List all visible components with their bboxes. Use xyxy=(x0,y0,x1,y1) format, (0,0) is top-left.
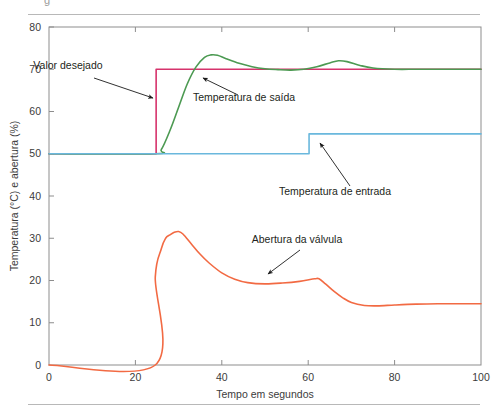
annotation-label: Abertura da válvula xyxy=(252,233,343,245)
y-axis-title: Temperatura (°C) e abertura (%) xyxy=(8,121,20,272)
figure-container: g 01020304050607080020406080100Tempo em … xyxy=(0,0,500,418)
annotation-arrow xyxy=(94,78,153,98)
y-axis-tick-label: 30 xyxy=(29,232,41,244)
plot-frame xyxy=(49,27,481,365)
y-axis-tick-label: 20 xyxy=(29,274,41,286)
x-axis-tick-label: 20 xyxy=(130,371,142,383)
annotation-temperatura-de-entrada: Temperatura de entrada xyxy=(279,143,391,197)
y-axis-tick-label: 60 xyxy=(29,105,41,117)
y-axis-tick-label: 80 xyxy=(29,21,41,33)
y-axis-tick-label: 50 xyxy=(29,147,41,159)
annotation-abertura-da-v-lvula: Abertura da válvula xyxy=(252,233,343,274)
y-axis-tick-label: 10 xyxy=(29,316,41,328)
x-axis-tick-label: 80 xyxy=(389,371,401,383)
annotation-arrow xyxy=(268,250,300,274)
annotation-valor-desejado: Valor desejado xyxy=(33,59,153,98)
annotation-arrow xyxy=(320,143,350,186)
series-line-temperatura-de-entrada xyxy=(49,134,481,154)
annotation-temperatura-de-sa-da: Temperatura de saída xyxy=(193,78,295,103)
y-axis-tick-label: 40 xyxy=(29,190,41,202)
series-line-abertura-da-v-lvula xyxy=(49,231,481,371)
x-axis-tick-label: 100 xyxy=(472,371,490,383)
x-axis-title: Tempo em segundos xyxy=(216,388,313,400)
y-axis-tick-label: 0 xyxy=(35,359,41,371)
x-axis-tick-label: 60 xyxy=(302,371,314,383)
x-axis-tick-label: 40 xyxy=(216,371,228,383)
annotation-label: Temperatura de saída xyxy=(193,91,295,103)
chart-plot: 01020304050607080020406080100Tempo em se… xyxy=(0,0,500,418)
annotation-label: Valor desejado xyxy=(33,59,102,71)
series-line-temperatura-de-sa-da xyxy=(49,55,481,154)
x-axis-tick-label: 0 xyxy=(46,371,52,383)
series-line-valor-desejado xyxy=(49,69,481,154)
annotation-label: Temperatura de entrada xyxy=(279,185,391,197)
